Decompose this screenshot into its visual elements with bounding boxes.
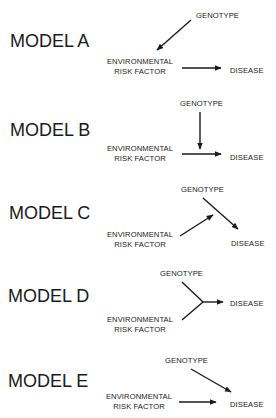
environmental-risk-factor-node-line2: RISK FACTOR — [114, 325, 166, 334]
model-a-label: MODEL A — [10, 31, 89, 51]
disease-node: DISEASE — [231, 239, 265, 248]
genotype-node: GENOTYPE — [160, 269, 203, 278]
genotype-node: GENOTYPE — [196, 11, 239, 20]
environmental-risk-factor-node-line2: RISK FACTOR — [114, 67, 166, 76]
arrow-genotype-to-disease — [203, 198, 238, 229]
environmental-risk-factor-node-line1: ENVIRONMENTAL — [106, 392, 172, 401]
line-environment-to-junction — [182, 302, 203, 320]
arrow-genotype-to-environment — [157, 20, 191, 50]
model-c-label: MODEL C — [9, 203, 90, 223]
model-b-label: MODEL B — [10, 120, 90, 140]
arrow-genotype-to-disease — [191, 369, 231, 392]
line-genotype-to-junction — [182, 282, 203, 302]
genotype-node: GENOTYPE — [180, 99, 223, 108]
causal-models-diagram: MODEL A GENOTYPE ENVIRONMENTAL RISK FACT… — [0, 0, 276, 418]
model-d: MODEL D GENOTYPE ENVIRONMENTAL RISK FACT… — [8, 269, 264, 334]
environmental-risk-factor-node-line2: RISK FACTOR — [114, 240, 166, 249]
disease-node: DISEASE — [230, 153, 264, 162]
disease-node: DISEASE — [230, 66, 264, 75]
model-e-label: MODEL E — [8, 371, 88, 391]
genotype-node: GENOTYPE — [181, 185, 224, 194]
disease-node: DISEASE — [230, 299, 264, 308]
environmental-risk-factor-node-line2: RISK FACTOR — [114, 154, 166, 163]
environmental-risk-factor-node-line2: RISK FACTOR — [113, 402, 165, 411]
environmental-risk-factor-node-line1: ENVIRONMENTAL — [107, 144, 173, 153]
model-c: MODEL C GENOTYPE ENVIRONMENTAL RISK FACT… — [9, 185, 265, 249]
environmental-risk-factor-node-line1: ENVIRONMENTAL — [107, 230, 173, 239]
disease-node: DISEASE — [230, 400, 264, 409]
model-e: MODEL E GENOTYPE ENVIRONMENTAL RISK FACT… — [8, 356, 264, 411]
genotype-node: GENOTYPE — [165, 356, 208, 365]
model-d-label: MODEL D — [8, 286, 89, 306]
arrow-environment-to-edge — [180, 215, 213, 236]
model-a: MODEL A GENOTYPE ENVIRONMENTAL RISK FACT… — [10, 11, 264, 76]
environmental-risk-factor-node-line1: ENVIRONMENTAL — [107, 315, 173, 324]
environmental-risk-factor-node-line1: ENVIRONMENTAL — [107, 57, 173, 66]
model-b: MODEL B GENOTYPE ENVIRONMENTAL RISK FACT… — [10, 99, 264, 163]
